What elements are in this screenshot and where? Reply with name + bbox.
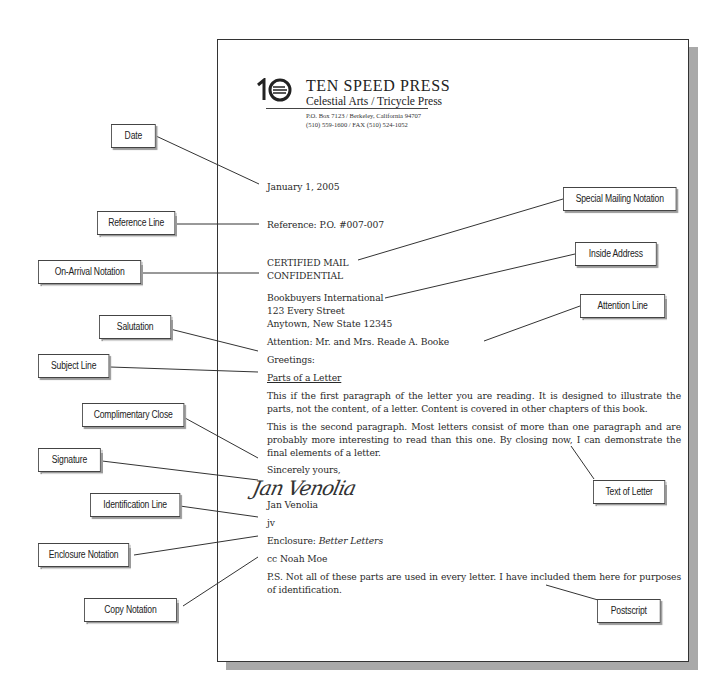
label-reference-line: Reference Line (97, 211, 175, 235)
label-date: Date (111, 124, 156, 148)
leader-inside-address (385, 254, 575, 298)
label-inside-address: Inside Address (575, 242, 657, 266)
leader-subject (110, 367, 258, 372)
label-signature: Signature (38, 448, 101, 472)
label-complimentary-close: Complimentary Close (82, 403, 184, 427)
leader-text-of-letter (571, 446, 594, 479)
label-special-mailing-notation: Special Mailing Notation (563, 187, 677, 211)
label-identification-line: Identification Line (90, 493, 180, 517)
leader-copy (183, 557, 258, 606)
leader-enclosure (134, 536, 258, 555)
leader-signature (102, 461, 258, 480)
label-copy-notation: Copy Notation (84, 598, 177, 622)
label-attention-line: Attention Line (580, 294, 665, 318)
label-postscript: Postscript (597, 599, 661, 623)
label-salutation: Salutation (99, 315, 171, 339)
label-enclosure-notation: Enclosure Notation (38, 543, 129, 567)
leader-complimentary-close (185, 418, 258, 458)
leader-identification (180, 506, 258, 517)
label-text-of-letter: Text of Letter (593, 480, 665, 504)
leader-salutation (170, 329, 258, 351)
leader-date (156, 136, 259, 184)
label-subject-line: Subject Line (38, 354, 109, 378)
label-on-arrival-notation: On-Arrival Notation (38, 260, 141, 284)
leader-postscript (546, 585, 598, 600)
leader-lines (0, 0, 727, 698)
leader-attention (484, 306, 580, 341)
leader-special-mailing (358, 199, 563, 260)
